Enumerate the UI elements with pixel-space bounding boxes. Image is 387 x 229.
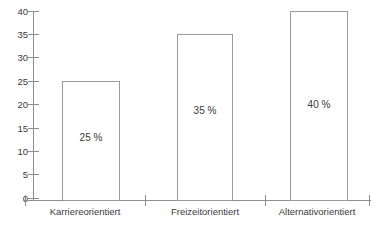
y-tick-label-30: 30 <box>4 53 28 63</box>
y-tick-group-15: 15 <box>0 124 28 134</box>
x-axis-tick-sep-2 <box>265 195 266 206</box>
bar-freizeitorientiert <box>177 34 233 201</box>
x-axis-category-label-1: Karriereorientiert <box>25 206 145 217</box>
bar-chart: 40 35 30 25 20 15 10 5 0 25 % 35 % <box>0 0 387 229</box>
bar-value-label-karriereorientiert: 25 % <box>62 133 120 143</box>
y-tick-label-25: 25 <box>4 77 28 87</box>
y-tick-group-10: 10 <box>0 147 28 157</box>
y-tick-label-15: 15 <box>4 124 28 134</box>
x-axis-category-label-3: Alternativorientiert <box>262 206 372 217</box>
y-tick-mark-15 <box>28 128 39 129</box>
y-tick-label-40: 40 <box>4 7 28 17</box>
y-tick-mark-20 <box>28 104 39 105</box>
bar-value-label-alternativorientiert: 40 % <box>290 100 348 110</box>
y-tick-label-5: 5 <box>4 170 28 180</box>
y-tick-mark-0 <box>28 198 39 199</box>
y-axis-line <box>33 11 34 201</box>
y-tick-mark-10 <box>28 151 39 152</box>
y-tick-group-20: 20 <box>0 100 28 110</box>
y-tick-mark-25 <box>28 81 39 82</box>
y-tick-group-0: 0 <box>0 194 28 204</box>
x-axis-tick-end <box>369 195 370 206</box>
bar-value-label-freizeitorientiert: 35 % <box>177 106 233 116</box>
x-axis-tick-start <box>25 195 26 206</box>
x-axis-category-label-2: Freizeitorientiert <box>145 206 265 217</box>
y-tick-group-35: 35 <box>0 30 28 40</box>
y-tick-label-10: 10 <box>4 147 28 157</box>
y-tick-mark-35 <box>28 34 39 35</box>
x-axis-tick-sep-1 <box>145 195 146 206</box>
y-tick-mark-40 <box>28 11 39 12</box>
y-tick-mark-30 <box>28 57 39 58</box>
y-tick-group-40: 40 <box>0 7 28 17</box>
y-tick-group-5: 5 <box>0 170 28 180</box>
y-tick-group-30: 30 <box>0 53 28 63</box>
y-tick-group-25: 25 <box>0 77 28 87</box>
y-tick-label-20: 20 <box>4 100 28 110</box>
y-tick-mark-5 <box>28 174 39 175</box>
y-tick-label-35: 35 <box>4 30 28 40</box>
